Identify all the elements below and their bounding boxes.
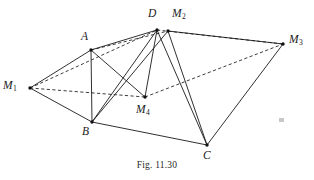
edge-M3-C: [207, 44, 283, 145]
vertex-label-text-M1: M: [3, 79, 13, 91]
edge-M1-M4-hidden: [30, 88, 145, 97]
edge-D-M4: [145, 30, 157, 97]
vertex-label-M1: M1: [3, 80, 16, 92]
vertex-label-text-D: D: [148, 7, 156, 19]
figure-container: M1ABDM2M3CM4 Fig. 11.30: [0, 0, 314, 180]
edge-M4-M3-hidden: [145, 44, 283, 97]
vertex-label-A: A: [81, 31, 88, 43]
edge-M2-C: [168, 31, 207, 145]
vertex-label-text-M2: M: [172, 7, 182, 19]
vertex-dot-B: [90, 120, 93, 123]
vertex-label-text-A: A: [81, 30, 88, 42]
edge-M1-B: [30, 88, 92, 122]
edge-D-C: [157, 30, 207, 145]
vertex-dot-M4: [143, 95, 146, 98]
vertex-label-subscript-M3: 3: [299, 38, 303, 47]
solid-edges-group: [30, 30, 283, 145]
vertex-label-text-M4: M: [136, 103, 146, 115]
figure-caption: Fig. 11.30: [0, 160, 314, 170]
edge-A-B: [91, 50, 92, 122]
vertex-label-text-B: B: [82, 125, 89, 137]
vertex-dot-A: [89, 48, 92, 51]
vertex-label-text-M3: M: [289, 33, 299, 45]
geometry-canvas: [0, 0, 314, 180]
vertex-dot-D: [155, 28, 158, 31]
edge-M2-M3: [168, 31, 283, 44]
vertex-dot-M2: [166, 29, 169, 32]
vertex-dot-M3: [281, 42, 284, 45]
edge-M1-D-hidden: [30, 30, 157, 88]
vertex-label-M4: M4: [136, 104, 149, 116]
vertex-label-B: B: [82, 126, 89, 138]
vertex-label-subscript-M2: 2: [182, 12, 186, 21]
scan-speck: [279, 118, 284, 122]
vertex-dot-M1: [28, 86, 31, 89]
vertex-label-subscript-M1: 1: [13, 84, 17, 93]
vertex-dot-C: [205, 143, 208, 146]
edge-A-D: [91, 30, 157, 50]
vertex-label-D: D: [148, 8, 156, 20]
edge-B-C: [92, 122, 207, 145]
vertex-label-M3: M3: [289, 34, 302, 46]
edge-B-M2: [92, 31, 168, 122]
edge-A-M4: [91, 50, 145, 97]
vertex-dots-group: [28, 28, 284, 146]
vertex-label-subscript-M4: 4: [146, 108, 150, 117]
vertex-label-M2: M2: [172, 8, 185, 20]
edge-M1-A: [30, 50, 91, 88]
